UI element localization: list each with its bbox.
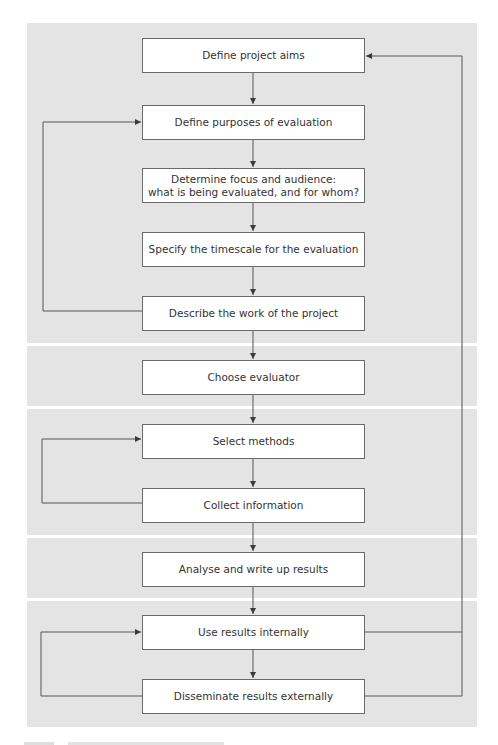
step-label: Specify the timescale for the evaluation (149, 243, 359, 256)
step-use-results-internally: Use results internally (142, 615, 365, 650)
step-label: Use results internally (198, 626, 309, 639)
step-describe-work: Describe the work of the project (142, 296, 365, 331)
step-collect-information: Collect information (142, 488, 365, 523)
step-select-methods: Select methods (142, 424, 365, 459)
step-choose-evaluator: Choose evaluator (142, 360, 365, 395)
step-label: Collect information (204, 499, 304, 512)
step-label: Determine focus and audience: what is be… (148, 173, 359, 199)
step-label: Analyse and write up results (179, 563, 328, 576)
step-disseminate-externally: Disseminate results externally (142, 679, 365, 714)
step-label: Disseminate results externally (174, 690, 333, 703)
step-label: Choose evaluator (207, 371, 299, 384)
step-analyse-write-up: Analyse and write up results (142, 552, 365, 587)
step-label: Select methods (213, 435, 295, 448)
step-define-project-aims: Define project aims (142, 38, 365, 73)
flowchart-panel: Define project aims Define purposes of e… (27, 23, 477, 727)
step-define-purposes: Define purposes of evaluation (142, 105, 365, 140)
figure-caption-clipped (24, 740, 224, 745)
step-determine-focus-audience: Determine focus and audience: what is be… (142, 168, 365, 203)
step-label: Define project aims (202, 49, 304, 62)
step-label: Describe the work of the project (169, 307, 338, 320)
step-label: Define purposes of evaluation (175, 116, 333, 129)
step-specify-timescale: Specify the timescale for the evaluation (142, 232, 365, 267)
